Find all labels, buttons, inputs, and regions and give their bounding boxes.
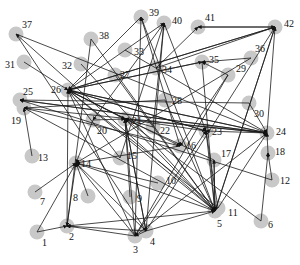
node-label-42: 42 [284, 18, 294, 29]
node-label-14: 14 [81, 158, 91, 169]
edge-12-to-25 [20, 100, 272, 180]
node-label-38: 38 [99, 30, 109, 41]
edge-24-to-42 [267, 27, 275, 133]
node-label-30: 30 [254, 108, 264, 119]
node-label-17: 17 [221, 148, 231, 159]
node-label-33: 33 [134, 46, 144, 57]
node-label-13: 13 [38, 152, 48, 163]
node-label-40: 40 [172, 15, 182, 26]
node-label-29: 29 [236, 63, 246, 74]
edge-2-to-26 [67, 90, 68, 226]
node-label-6: 6 [268, 219, 273, 230]
node-label-18: 18 [275, 146, 285, 157]
node-label-9: 9 [137, 193, 142, 204]
node-label-4: 4 [150, 236, 155, 247]
node-label-5: 5 [217, 218, 222, 229]
node-label-1: 1 [42, 237, 47, 248]
node-label-26: 26 [51, 84, 61, 95]
node-label-10: 10 [166, 175, 176, 186]
edge-5-to-14 [76, 163, 215, 211]
edge-6-to-18 [261, 153, 268, 221]
node-label-16: 16 [186, 140, 196, 151]
node-label-28: 28 [172, 95, 182, 106]
node-label-34: 34 [162, 64, 172, 75]
node-label-37: 37 [22, 19, 32, 30]
node-label-41: 41 [205, 12, 215, 23]
node-label-21: 21 [132, 115, 142, 126]
node-label-24: 24 [276, 126, 286, 137]
node-label-23: 23 [212, 126, 222, 137]
node-label-12: 12 [280, 175, 290, 186]
node-label-36: 36 [255, 43, 265, 54]
node-label-8: 8 [73, 192, 78, 203]
network-diagram: 1234567891011121314151617181920212223242… [0, 0, 300, 265]
edge-3-to-2 [67, 226, 135, 236]
node-label-31: 31 [5, 59, 15, 70]
node-circles [9, 10, 283, 244]
edge-13-to-19 [24, 108, 32, 156]
node-label-11: 11 [228, 207, 238, 218]
node-label-22: 22 [160, 125, 170, 136]
node-label-7: 7 [40, 196, 45, 207]
edges [16, 17, 275, 236]
edge-34-to-41 [156, 27, 198, 68]
node-label-15: 15 [127, 150, 137, 161]
node-label-27: 27 [120, 69, 130, 80]
edge-7-to-14 [35, 163, 76, 192]
node-label-19: 19 [11, 115, 21, 126]
node-label-3: 3 [133, 244, 138, 255]
node-label-20: 20 [97, 125, 107, 136]
node-label-2: 2 [69, 231, 74, 242]
node-label-32: 32 [62, 60, 72, 71]
edge-11-to-23 [206, 131, 218, 208]
node-label-39: 39 [149, 7, 159, 18]
node-label-25: 25 [23, 86, 33, 97]
node-label-35: 35 [209, 54, 219, 65]
